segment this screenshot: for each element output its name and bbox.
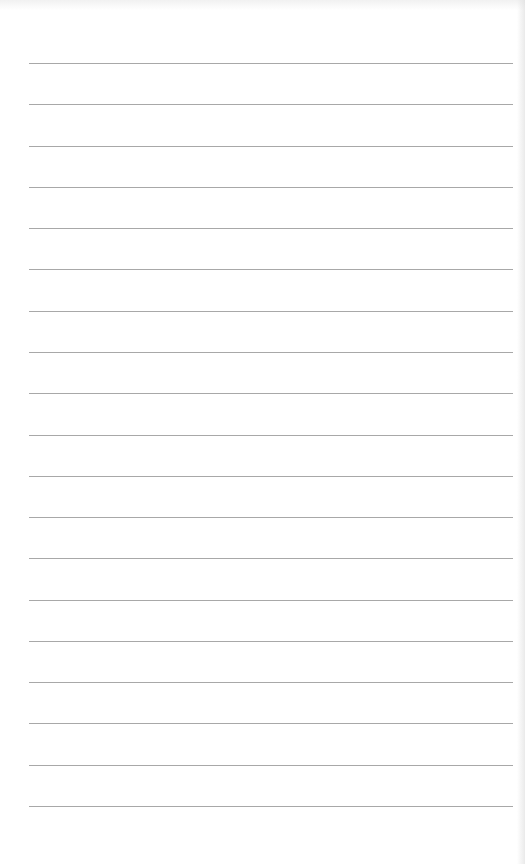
- ruled-line: [29, 476, 513, 477]
- ruled-line: [29, 765, 513, 766]
- ruled-line: [29, 228, 513, 229]
- ruled-line: [29, 393, 513, 394]
- lined-paper-page: [0, 0, 525, 864]
- ruled-line: [29, 558, 513, 559]
- ruled-line: [29, 311, 513, 312]
- ruled-line: [29, 600, 513, 601]
- ruled-line: [29, 435, 513, 436]
- top-edge-shading: [0, 0, 525, 10]
- ruled-line: [29, 352, 513, 353]
- ruled-line: [29, 63, 513, 64]
- ruled-line: [29, 269, 513, 270]
- right-edge-shading: [517, 0, 525, 864]
- ruled-line: [29, 682, 513, 683]
- ruled-line: [29, 723, 513, 724]
- ruled-line: [29, 104, 513, 105]
- ruled-line: [29, 641, 513, 642]
- ruled-line: [29, 806, 513, 807]
- ruled-line: [29, 146, 513, 147]
- ruled-line: [29, 517, 513, 518]
- ruled-line: [29, 187, 513, 188]
